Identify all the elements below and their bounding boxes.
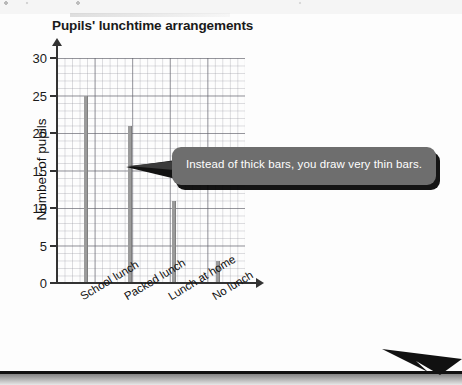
y-tick-label-30: 30 <box>33 51 47 66</box>
callout-tail-icon <box>126 158 176 180</box>
y-tick-mark-25 <box>50 95 57 97</box>
chart-title: Pupils' lunchtime arrangements <box>52 18 253 33</box>
callout-text: Instead of thick bars, you draw very thi… <box>172 158 436 170</box>
y-axis-label: Number of pupils <box>34 80 49 260</box>
y-tick-mark-30 <box>50 57 57 59</box>
y-tick-label-0: 0 <box>40 276 47 291</box>
y-tick-mark-20 <box>50 132 57 134</box>
x-axis-arrow-icon <box>256 278 264 288</box>
y-tick-mark-0 <box>50 282 57 284</box>
scan-artifact-top-secondary <box>70 13 230 17</box>
y-tick-mark-5 <box>50 245 57 247</box>
y-axis-label-host: Number of pupils <box>14 70 34 250</box>
scan-artifact-top <box>0 0 462 14</box>
y-tick-mark-10 <box>50 207 57 209</box>
worksheet-page: Pupils' lunchtime arrangements 051015202… <box>0 0 462 385</box>
y-tick-mark-15 <box>50 170 57 172</box>
bar-school-lunch <box>84 96 88 284</box>
callout-bubble: Instead of thick bars, you draw very thi… <box>172 147 436 185</box>
y-axis-line <box>56 44 58 284</box>
page-bottom-shadow <box>0 374 462 385</box>
y-axis-arrow-icon <box>52 38 62 46</box>
